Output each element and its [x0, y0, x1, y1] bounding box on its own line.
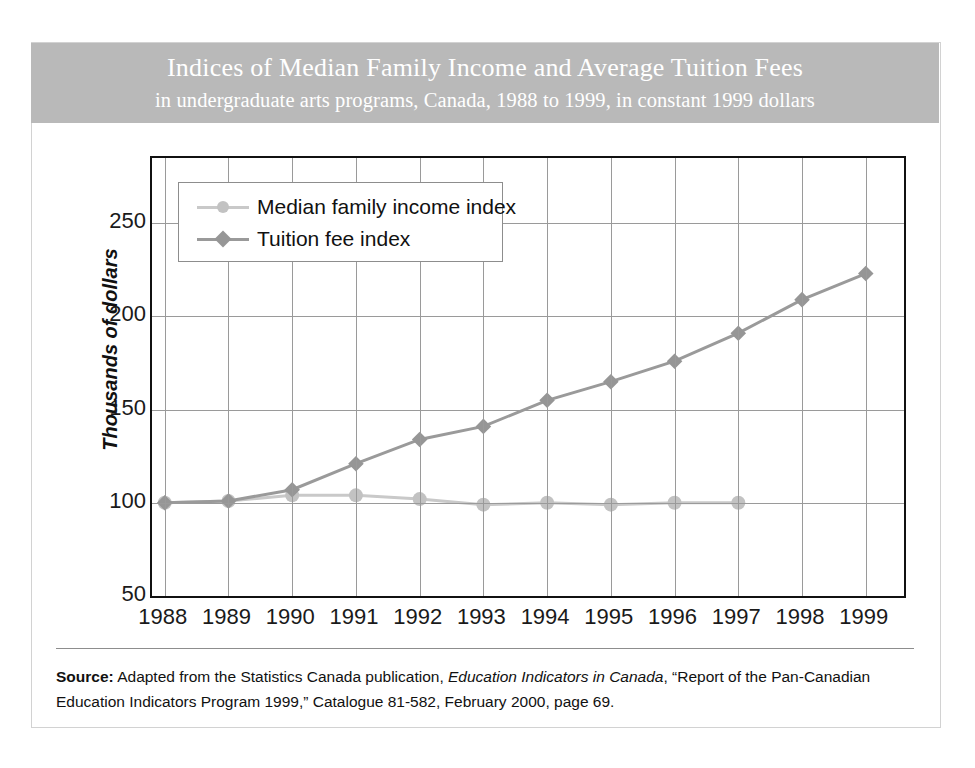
chart-page: Indices of Median Family Income and Aver… [0, 0, 975, 768]
chart-legend: Median family income index Tuition fee i… [178, 182, 503, 262]
figure-subtitle: in undergraduate arts programs, Canada, … [31, 85, 939, 115]
x-tick-label: 1999 [824, 604, 904, 630]
gridline-horizontal [152, 410, 904, 411]
legend-item-income: Median family income index [197, 191, 502, 223]
figure-title-band: Indices of Median Family Income and Aver… [31, 43, 939, 123]
gridline-horizontal [152, 316, 904, 317]
diamond-marker-icon [215, 231, 232, 248]
circle-marker-icon [217, 201, 229, 213]
source-publication-title: Education Indicators in Canada [448, 668, 663, 685]
series-line-tuition [165, 274, 866, 503]
y-tick-label: 250 [100, 208, 146, 234]
y-tick-label: 200 [100, 301, 146, 327]
source-divider [56, 648, 914, 649]
figure-title: Indices of Median Family Income and Aver… [31, 51, 939, 85]
source-note: Source: Adapted from the Statistics Cana… [56, 664, 918, 714]
x-axis-tick-labels: 1988198919901991199219931994199519961997… [150, 604, 906, 636]
legend-label-tuition: Tuition fee index [257, 227, 410, 251]
legend-item-tuition: Tuition fee index [197, 223, 502, 255]
legend-swatch-income [197, 198, 249, 216]
y-axis-tick-labels: 50100150200250 [91, 156, 146, 598]
source-label: Source: [56, 668, 114, 685]
gridline-horizontal [152, 503, 904, 504]
legend-label-income: Median family income index [257, 195, 516, 219]
y-tick-label: 100 [100, 488, 146, 514]
chart-area: Thousands of dollars 50100150200250 1988… [31, 123, 939, 643]
y-tick-label: 150 [100, 395, 146, 421]
source-text-1: Adapted from the Statistics Canada publi… [114, 668, 448, 685]
legend-swatch-tuition [197, 230, 249, 248]
